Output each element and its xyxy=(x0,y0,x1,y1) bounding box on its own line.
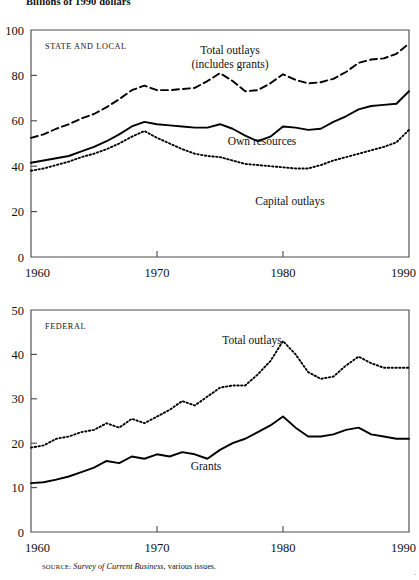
series-line-dotted xyxy=(31,130,409,171)
figure-title: Billions of 1990 dollars xyxy=(26,0,131,7)
y-tick-label: 10 xyxy=(12,481,25,495)
figure-container: Billions of 1990 dollars 020406080100196… xyxy=(0,0,419,580)
series-annotation: Own resources xyxy=(228,135,297,147)
y-tick-label: 40 xyxy=(12,348,25,362)
y-tick-label: 0 xyxy=(18,251,24,265)
chart-panel-state-and-local: 0204060801001960197019801990STATE AND LO… xyxy=(0,12,419,282)
series-line-dotted xyxy=(31,341,409,448)
y-tick-label: 30 xyxy=(12,392,25,406)
x-tick-label: 1960 xyxy=(25,266,50,280)
x-tick-label: 1980 xyxy=(271,541,296,555)
series-annotation: Grants xyxy=(191,460,222,472)
series-annotation: Capital outlays xyxy=(255,195,325,208)
state-and-local-svg: 0204060801001960197019801990STATE AND LO… xyxy=(0,12,419,282)
panel-label: STATE AND LOCAL xyxy=(45,42,127,51)
source-detail: , various issues. xyxy=(164,562,217,571)
series-line-solid xyxy=(31,91,409,163)
x-tick-label: 1980 xyxy=(271,266,296,280)
x-tick-label: 1990 xyxy=(391,266,416,280)
x-tick-label: 1990 xyxy=(391,541,416,555)
series-line-solid xyxy=(31,417,409,484)
chart-panel-federal: 010203040501960197019801990FEDERALTotal … xyxy=(0,292,419,560)
y-tick-label: 20 xyxy=(12,205,25,219)
panel-label: FEDERAL xyxy=(45,322,86,331)
y-tick-label: 50 xyxy=(12,304,25,318)
plot-frame xyxy=(31,310,409,532)
series-annotation: (includes grants) xyxy=(192,58,269,71)
x-tick-label: 1960 xyxy=(25,541,50,555)
x-tick-label: 1970 xyxy=(145,541,170,555)
x-tick-label: 1970 xyxy=(145,266,170,280)
y-tick-label: 20 xyxy=(12,437,25,451)
source-label: SOURCE: xyxy=(42,563,71,570)
y-tick-label: 0 xyxy=(18,526,24,540)
y-tick-label: 80 xyxy=(12,69,25,83)
federal-svg: 010203040501960197019801990FEDERALTotal … xyxy=(0,292,419,560)
y-tick-label: 40 xyxy=(12,160,25,174)
series-annotation: Total outlays xyxy=(200,44,260,57)
source-publication: Survey of Current Business xyxy=(73,562,163,571)
y-tick-label: 60 xyxy=(12,114,25,128)
page-corner-mark: · xyxy=(414,571,416,579)
series-annotation: Total outlays xyxy=(222,334,282,347)
source-note: SOURCE: Survey of Current Business, vari… xyxy=(42,562,216,571)
y-tick-label: 100 xyxy=(5,24,24,38)
